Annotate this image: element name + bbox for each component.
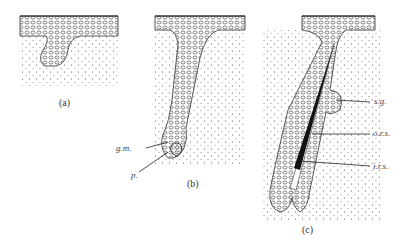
panel-b-label: (b) [187,178,199,189]
hair-follicle-diagram [0,0,415,245]
label-p: p. [131,170,138,180]
panel-b [139,16,245,172]
panel-a-label: (a) [59,97,70,108]
panel-a [20,16,118,86]
panel-c-label: (c) [302,224,313,235]
label-gm: g.m. [116,143,132,153]
label-ors: o.r.s. [373,128,390,138]
label-irs: i.r.s. [373,161,388,171]
label-sg: s.g. [374,96,387,106]
panel-c [262,16,382,220]
